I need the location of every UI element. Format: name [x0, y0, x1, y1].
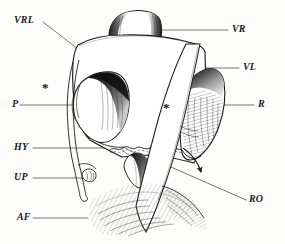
label-up: UP	[14, 172, 28, 182]
asterisk-right-marker: *	[163, 101, 170, 114]
asterisk-left-marker: *	[42, 81, 49, 94]
anatomical-figure: VRL VR VL P R HY UP RO AF * *	[0, 0, 285, 244]
figure-drawing	[0, 0, 285, 244]
label-vl: VL	[243, 62, 256, 72]
label-hy: HY	[14, 142, 28, 152]
label-af: AF	[17, 212, 31, 222]
label-r: R	[258, 99, 265, 109]
label-vr: VR	[232, 24, 246, 34]
label-vrl: VRL	[14, 15, 34, 25]
label-ro: RO	[249, 194, 263, 204]
label-p: P	[12, 99, 18, 109]
